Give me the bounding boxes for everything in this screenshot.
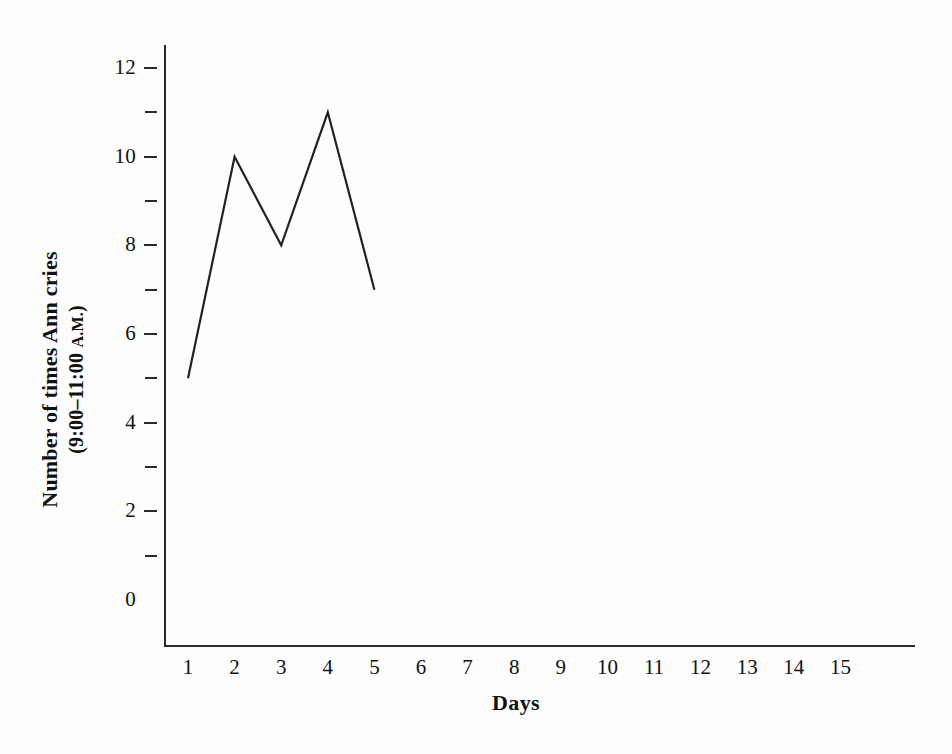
x-tick-label: 1 <box>166 655 210 679</box>
x-tick-label: 14 <box>772 655 816 679</box>
y-tick-label: 10 <box>96 146 136 167</box>
y-tick-minor <box>145 466 157 468</box>
y-tick-minor <box>145 289 157 291</box>
y-tick-label-text: 4 <box>96 412 136 433</box>
y-axis-title: Number of times Ann cries (9:00–11:00 A.… <box>36 120 91 640</box>
y-tick-label: 4 <box>96 412 136 433</box>
x-tick-label: 7 <box>446 655 490 679</box>
x-tick-label: 15 <box>818 655 862 679</box>
x-tick-label: 9 <box>539 655 583 679</box>
y-tick-label: 6 <box>96 323 136 344</box>
y-tick-major <box>144 67 157 69</box>
x-tick-label: 6 <box>399 655 443 679</box>
x-tick-label: 10 <box>585 655 629 679</box>
y-axis-title-line2: (9:00–11:00 A.M.) <box>63 120 91 640</box>
y-tick-label-text: 8 <box>96 234 136 255</box>
y-tick-minor <box>145 200 157 202</box>
y-tick-major <box>144 510 157 512</box>
x-tick-label: 8 <box>492 655 536 679</box>
x-tick-label: 13 <box>725 655 769 679</box>
y-tick-label: 0 <box>96 589 136 610</box>
x-axis-title-text: Days <box>492 690 540 716</box>
y-tick-minor <box>145 111 157 113</box>
y-tick-major <box>144 156 157 158</box>
y-axis-line <box>164 45 166 647</box>
x-tick-label: 4 <box>306 655 350 679</box>
y-tick-label-text: 0 <box>96 589 136 610</box>
x-axis-line <box>164 645 915 647</box>
x-axis-title: Days <box>0 690 952 716</box>
y-tick-label: 12 <box>96 57 136 78</box>
x-tick-label: 3 <box>259 655 303 679</box>
x-tick-label: 11 <box>632 655 676 679</box>
data-series-line <box>188 112 374 378</box>
y-tick-label-text: 10 <box>96 146 136 167</box>
y-tick-major <box>144 333 157 335</box>
y-tick-label-text: 12 <box>96 57 136 78</box>
y-tick-label: 2 <box>96 500 136 521</box>
plot-area <box>0 0 952 754</box>
x-tick-label: 5 <box>352 655 396 679</box>
y-tick-label-text: 2 <box>96 500 136 521</box>
y-axis-title-time-prefix: (9:00–11:00 <box>65 348 87 454</box>
y-tick-major <box>144 244 157 246</box>
y-tick-label-text: 6 <box>96 323 136 344</box>
y-axis-title-line1: Number of times Ann cries <box>37 251 62 507</box>
y-axis-title-meridiem: A.M. <box>69 312 86 347</box>
y-axis-title-paren: ) <box>65 305 87 312</box>
y-tick-label: 8 <box>96 234 136 255</box>
y-tick-major <box>144 422 157 424</box>
y-tick-minor <box>145 555 157 557</box>
x-tick-label: 12 <box>679 655 723 679</box>
chart-page: 121086420 123456789101112131415 Number o… <box>0 0 952 754</box>
y-tick-minor <box>145 377 157 379</box>
x-tick-label: 2 <box>213 655 257 679</box>
